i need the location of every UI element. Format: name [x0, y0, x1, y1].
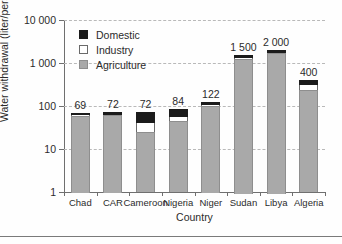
x-axis-tick [227, 192, 228, 196]
x-axis-label-cameroon: Cameroon [123, 197, 167, 208]
bar-cameroon[interactable]: 72 [136, 112, 155, 192]
y-axis-tick-label: 100 [38, 100, 56, 112]
x-axis-label-nigeria: Nigeria [163, 197, 193, 208]
bar-segment-domestic [136, 112, 155, 123]
bar-algeria[interactable]: 400 [299, 80, 318, 192]
legend-swatch-icon [79, 45, 88, 54]
x-axis-tick [325, 192, 326, 196]
chart-legend: DomesticIndustryAgriculture [79, 27, 146, 72]
bar-segment-agriculture [234, 59, 253, 194]
legend-item-domestic[interactable]: Domestic [79, 27, 146, 42]
y-axis-tick [59, 20, 64, 21]
bar-segment-agriculture [136, 132, 155, 192]
x-axis-tick [162, 192, 163, 196]
bar-segment-agriculture [169, 121, 188, 192]
bar-value-label: 84 [172, 95, 184, 107]
legend-label: Industry [96, 44, 133, 56]
x-axis-label-libya: Libya [265, 197, 288, 208]
legend-swatch-icon [79, 60, 88, 69]
bar-value-label: 69 [74, 99, 86, 111]
bar-niger[interactable]: 122 [201, 102, 220, 192]
bar-chad[interactable]: 69 [71, 113, 90, 192]
bar-segment-agriculture [299, 90, 318, 192]
bar-segment-industry [136, 123, 155, 132]
bar-segment-agriculture [71, 116, 90, 193]
x-axis-tick [292, 192, 293, 196]
gridline [64, 20, 325, 21]
legend-label: Domestic [96, 29, 140, 41]
x-axis-title: Country [64, 211, 325, 223]
bar-value-label: 1 500 [230, 41, 256, 53]
bar-segment-agriculture [201, 106, 220, 194]
y-axis-tick [59, 149, 64, 150]
x-axis-label-algeria: Algeria [294, 197, 324, 208]
y-axis-tick [59, 63, 64, 64]
x-axis-tick [97, 192, 98, 196]
bar-segment-domestic [169, 109, 188, 116]
bar-segment-agriculture [103, 115, 122, 193]
y-axis-tick [59, 106, 64, 107]
x-axis-tick [129, 192, 130, 196]
y-axis-tick-label: 1 000 [30, 57, 56, 69]
x-axis-label-niger: Niger [199, 197, 222, 208]
bar-sudan[interactable]: 1 500 [234, 55, 253, 192]
x-axis-label-chad: Chad [69, 197, 92, 208]
legend-item-agriculture[interactable]: Agriculture [79, 57, 146, 72]
bar-car[interactable]: 72 [103, 112, 122, 192]
bar-value-label: 72 [140, 98, 152, 110]
x-axis-label-sudan: Sudan [230, 197, 257, 208]
x-axis-tick [195, 192, 196, 196]
bar-value-label: 400 [300, 66, 318, 78]
x-axis-tick [260, 192, 261, 196]
legend-swatch-icon [79, 30, 88, 39]
y-axis-tick-label: 10 000 [24, 14, 56, 26]
bottom-divider [0, 236, 342, 237]
bar-value-label: 2 000 [263, 36, 289, 48]
y-axis-tick-label: 1 [50, 186, 56, 198]
bar-value-label: 122 [202, 88, 220, 100]
bar-libya[interactable]: 2 000 [267, 50, 286, 192]
legend-item-industry[interactable]: Industry [79, 42, 146, 57]
x-axis-label-car: CAR [103, 197, 123, 208]
x-axis-tick [64, 192, 65, 196]
legend-label: Agriculture [96, 59, 146, 71]
bar-value-label: 72 [107, 98, 119, 110]
bar-segment-agriculture [267, 53, 286, 194]
y-axis-title: Water withdrawal (liter/person and day) [0, 0, 10, 122]
gridline [64, 106, 325, 107]
y-axis-tick-label: 10 [44, 143, 56, 155]
chart-figure: Water withdrawal (liter/person and day) … [0, 0, 342, 244]
bar-nigeria[interactable]: 84 [169, 109, 188, 192]
